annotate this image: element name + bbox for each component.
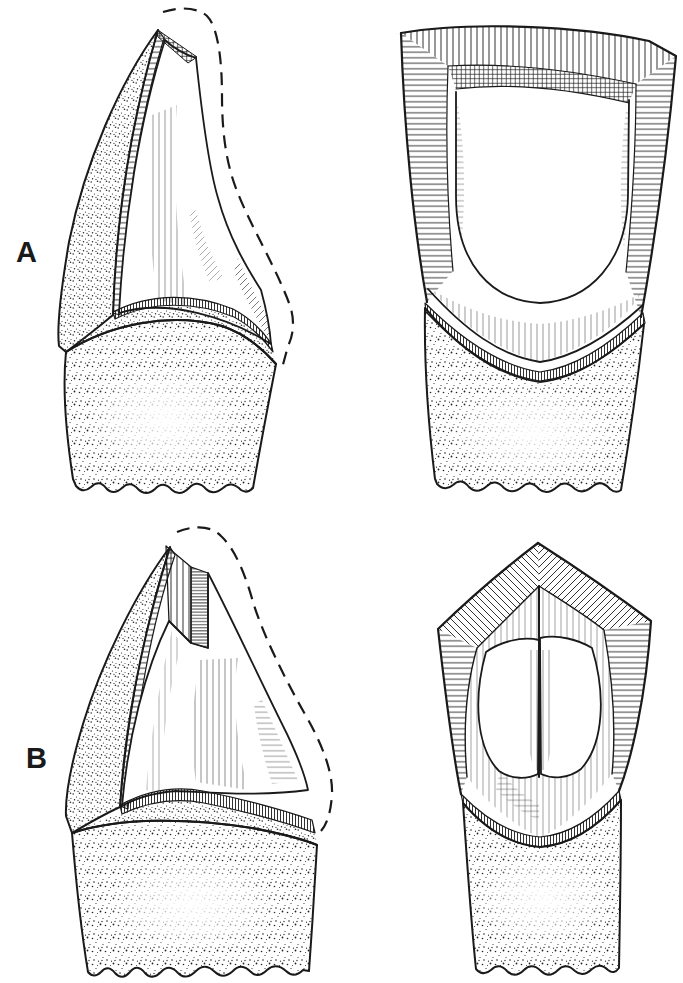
- prepared-lingual-window: [456, 87, 629, 303]
- incisal-facet-strip: [191, 567, 208, 648]
- dental-preparation-illustration: A B: [0, 0, 683, 983]
- figure-page: A B: [0, 0, 683, 983]
- panel-a-label: A: [16, 236, 37, 268]
- panel-b-lingual-view-drawing: [438, 543, 651, 975]
- panel-a-proximal-view-drawing: [58, 9, 293, 494]
- panel-b-label: B: [26, 742, 47, 774]
- panel-b-proximal-view-drawing: [66, 527, 332, 976]
- panel-a-lingual-view-drawing: [401, 26, 676, 492]
